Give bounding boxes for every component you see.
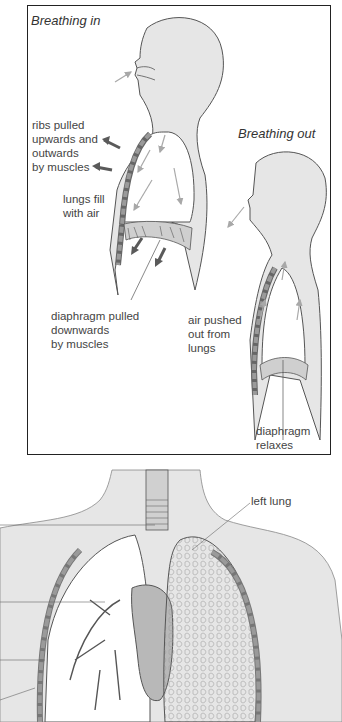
diaphragm-relaxes-label: diaphragm relaxes [256, 424, 310, 452]
breathing-panel-border [27, 5, 331, 455]
diaphragm-pulled-label: diaphragm pulled downwards by muscles [51, 309, 139, 351]
air-pushed-label: air pushed out from lungs [188, 313, 242, 355]
breathing-in-title: Breathing in [31, 14, 100, 28]
left-lung-label: left lung [251, 494, 291, 508]
breathing-out-title: Breathing out [238, 127, 315, 141]
lungs-fill-label: lungs fill with air [63, 192, 105, 220]
ribs-label: ribs pulled upwards and outwards by musc… [32, 118, 98, 174]
